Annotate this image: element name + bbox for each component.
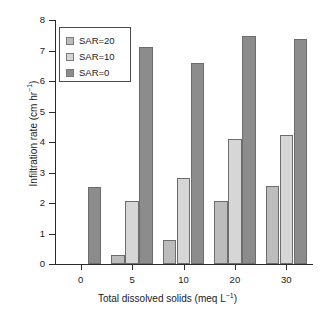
y-axis-title: Infiltration rate (cm hr−1) (28, 9, 39, 259)
y-tick-mark (49, 203, 55, 204)
x-axis-title: Total dissolved solids (meq L−1) (0, 293, 335, 304)
bar (139, 47, 153, 264)
bar (280, 135, 294, 264)
legend-item-sar20: SAR=20 (66, 33, 130, 49)
bar (111, 255, 125, 264)
x-tick-label: 10 (164, 275, 204, 285)
x-axis-title-exponent: −1 (226, 292, 234, 299)
x-tick-label: 0 (61, 275, 101, 285)
y-axis-title-tail: ) (28, 81, 39, 84)
x-tick-mark (235, 264, 236, 270)
y-axis-title-exponent: −1 (26, 84, 33, 92)
bar (88, 187, 102, 264)
bar (242, 36, 256, 264)
legend-item-sar10: SAR=10 (66, 49, 130, 65)
y-tick-mark (49, 112, 55, 113)
x-tick-mark (184, 264, 185, 270)
legend-label-sar10: SAR=10 (79, 52, 115, 62)
legend-label-sar0: SAR=0 (79, 68, 109, 78)
bar (214, 201, 228, 264)
y-tick-mark (49, 81, 55, 82)
y-axis-title-main: Infiltration rate (cm hr (28, 92, 39, 186)
x-tick-label: 20 (215, 275, 255, 285)
legend-swatch-sar10 (66, 53, 74, 61)
bar (266, 186, 280, 264)
y-tick-mark (49, 51, 55, 52)
y-tick-mark (49, 234, 55, 235)
x-axis-title-tail: ) (234, 293, 237, 304)
y-axis-line (55, 20, 56, 265)
x-axis-title-main: Total dissolved solids (meq L (98, 293, 226, 304)
x-tick-mark (132, 264, 133, 270)
y-tick-mark (49, 264, 55, 265)
bar (294, 39, 308, 264)
x-tick-mark (81, 264, 82, 270)
x-tick-mark (286, 264, 287, 270)
bar (177, 178, 191, 264)
bar (191, 63, 205, 264)
bar (163, 240, 177, 264)
legend-item-sar0: SAR=0 (66, 65, 130, 81)
bar (125, 201, 139, 264)
legend: SAR=20 SAR=10 SAR=0 (59, 27, 131, 82)
y-tick-mark (49, 142, 55, 143)
y-tick-mark (49, 173, 55, 174)
y-tick-label: 0 (21, 259, 45, 269)
x-tick-label: 5 (112, 275, 152, 285)
legend-swatch-sar20 (66, 37, 74, 45)
x-tick-label: 30 (266, 275, 306, 285)
bar (228, 139, 242, 264)
infiltration-rate-bar-chart: 012345678 05102030 SAR=20 SAR=10 SAR=0 T… (0, 0, 335, 319)
legend-swatch-sar0 (66, 69, 74, 77)
y-tick-mark (49, 20, 55, 21)
legend-label-sar20: SAR=20 (79, 36, 115, 46)
